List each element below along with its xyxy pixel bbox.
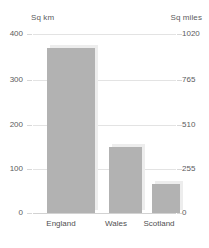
left-tick-label-400: 400 bbox=[0, 30, 23, 38]
bar-slot-scotland bbox=[152, 34, 180, 213]
right-tick-label-1020: 1020 bbox=[182, 30, 209, 38]
tick-stub-left-300 bbox=[27, 80, 32, 81]
gridline-0 bbox=[33, 213, 176, 214]
bar-series bbox=[33, 34, 176, 213]
bar-england[interactable] bbox=[47, 48, 95, 213]
bar-chart: Sq km Sq miles bbox=[0, 0, 209, 248]
left-tick-label-0: 0 bbox=[0, 209, 23, 217]
tick-stub-left-200 bbox=[27, 125, 32, 126]
right-tick-label-255: 255 bbox=[182, 165, 209, 173]
right-tick-label-0: 0 bbox=[182, 209, 209, 217]
right-axis-title: Sq miles bbox=[171, 13, 202, 22]
plot-area bbox=[33, 34, 176, 213]
left-axis-title: Sq km bbox=[31, 13, 54, 22]
left-tick-label-300: 300 bbox=[0, 76, 23, 84]
tick-stub-left-0 bbox=[27, 213, 32, 214]
tick-stub-left-100 bbox=[27, 169, 32, 170]
right-tick-label-765: 765 bbox=[182, 76, 209, 84]
bar-scotland[interactable] bbox=[152, 184, 180, 213]
category-label-scotland: Scotland bbox=[126, 219, 192, 228]
tick-stub-left-400 bbox=[27, 34, 32, 35]
right-tick-label-510: 510 bbox=[182, 121, 209, 129]
bar-slot-england bbox=[47, 34, 95, 213]
left-tick-label-100: 100 bbox=[0, 165, 23, 173]
bar-wales[interactable] bbox=[109, 147, 142, 213]
left-tick-label-200: 200 bbox=[0, 121, 23, 129]
bar-slot-wales bbox=[109, 34, 142, 213]
